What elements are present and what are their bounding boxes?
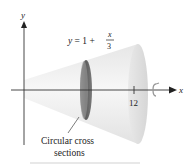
cone-diagram: y x 12 y = 1 + x 3 Circular cross sectio… [0,0,195,168]
bottom-rule [30,162,140,164]
y-axis: y [20,10,27,145]
equation-lhs: y = 1 + [67,36,95,46]
annotation-line1: Circular cross [41,136,94,146]
curve-equation: y = 1 + x 3 [67,30,114,51]
y-axis-label: y [20,10,25,20]
rotation-arrow-icon [153,83,159,96]
x-tick-label: 12 [129,98,138,108]
x-axis-label: x [178,85,183,95]
annotation-line2: sections [54,148,85,158]
y-axis-arrow-icon [21,21,27,28]
x-axis-arrow-icon [169,87,177,94]
equation-numerator: x [107,30,112,39]
equation-denominator: 3 [107,42,111,51]
leader-line [68,117,79,133]
